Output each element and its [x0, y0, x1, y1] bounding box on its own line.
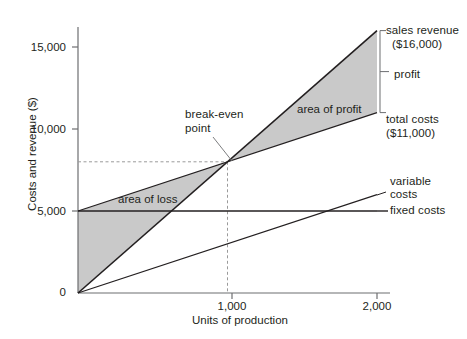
variable-costs-label-line2: costs [390, 188, 417, 202]
breakeven-chart: Costs and revenue ($) 15,000 10,000 5,00… [0, 0, 467, 339]
y-axis-title: Costs and revenue ($) [26, 84, 38, 224]
breakeven-label-line1: break-even [185, 108, 244, 122]
breakeven-label-line2: point [185, 122, 210, 136]
variable-costs-label-line1: variable [390, 175, 431, 189]
area-of-loss-label: area of loss [118, 193, 177, 205]
profit-label: profit [394, 68, 420, 82]
x-axis-title: Units of production [150, 314, 330, 326]
area-of-profit-label: area of profit [297, 103, 362, 115]
fixed-costs-label: fixed costs [390, 204, 445, 218]
y-tick-label-15000: 15,000 [18, 41, 66, 53]
total-costs-value-label: ($11,000) [386, 127, 435, 141]
y-tick-label-0: 0 [18, 286, 66, 298]
variable-costs-leader [377, 192, 386, 195]
x-tick-label-1000: 1,000 [202, 300, 262, 312]
breakeven-leader-line [213, 137, 232, 161]
sales-revenue-value-label: ($16,000) [392, 38, 442, 52]
total-costs-label: total costs [386, 113, 439, 127]
sales-revenue-label: sales revenue [386, 24, 459, 38]
y-tick-label-5000: 5,000 [18, 205, 66, 217]
x-tick-label-2000: 2,000 [347, 300, 407, 312]
y-tick-label-10000: 10,000 [18, 123, 66, 135]
